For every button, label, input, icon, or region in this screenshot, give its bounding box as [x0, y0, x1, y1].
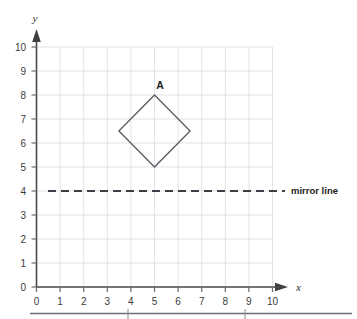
y-tick-label-1: 1	[20, 258, 26, 269]
y-tick-label-7: 7	[20, 114, 26, 125]
shape-a-label: A	[156, 79, 164, 91]
x-axis-label: x	[295, 281, 301, 293]
x-tick-label-2: 2	[81, 296, 87, 307]
y-axis-arrow-icon	[32, 29, 41, 42]
graph-svg: 0 1 2 3 4 5 6 7 8 9 10 0 1 2 3 4 5 6 7 8…	[0, 0, 357, 319]
y-tick-label-10: 10	[15, 42, 27, 53]
y-tick-label-9: 9	[20, 66, 26, 77]
y-tick-label-8: 8	[20, 90, 26, 101]
y-axis-label: y	[32, 12, 38, 24]
coordinate-grid-figure: 0 1 2 3 4 5 6 7 8 9 10 0 1 2 3 4 5 6 7 8…	[0, 0, 357, 319]
x-tick-label-1: 1	[57, 296, 63, 307]
y-tick-label-0: 0	[20, 282, 26, 293]
x-tick-label-7: 7	[199, 296, 205, 307]
x-tick-label-3: 3	[105, 296, 111, 307]
y-tick-label-3: 3	[20, 210, 26, 221]
x-tick-label-4: 4	[128, 296, 134, 307]
y-tick-label-4: 4	[20, 186, 26, 197]
x-tick-label-10: 10	[267, 296, 279, 307]
x-tick-label-5: 5	[152, 296, 158, 307]
y-tick-label-6: 6	[20, 138, 26, 149]
x-tick-label-8: 8	[223, 296, 229, 307]
x-tick-label-9: 9	[246, 296, 252, 307]
footer-table-border	[30, 309, 352, 319]
x-tick-label-6: 6	[175, 296, 181, 307]
y-tick-label-2: 2	[20, 234, 26, 245]
x-tick-label-0: 0	[34, 296, 40, 307]
mirror-line-label: mirror line	[291, 185, 338, 196]
y-tick-label-5: 5	[20, 162, 26, 173]
